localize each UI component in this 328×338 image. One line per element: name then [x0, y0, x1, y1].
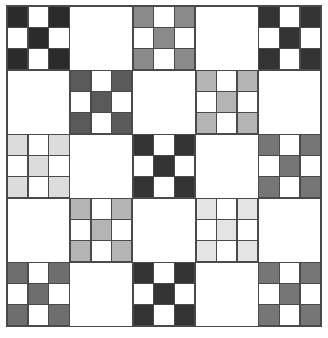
quilt-block-r2-c4	[195, 70, 259, 135]
patch-filled	[300, 176, 321, 198]
patch-filled	[91, 91, 112, 113]
patch-filled	[111, 70, 132, 92]
patch-filled	[258, 176, 279, 198]
patch-empty	[7, 155, 28, 177]
patch-empty	[279, 262, 300, 284]
patch-empty	[28, 48, 49, 70]
patch-filled	[111, 112, 132, 134]
patch-empty	[7, 283, 28, 305]
patch-filled	[174, 262, 195, 284]
patch-filled	[300, 304, 321, 326]
patch-empty	[279, 6, 300, 28]
nine-patch-r1-c1	[8, 7, 70, 70]
patch-filled	[133, 304, 154, 326]
patch-filled	[174, 6, 195, 28]
patch-empty	[279, 48, 300, 70]
patch-filled	[196, 70, 217, 92]
patch-filled	[133, 6, 154, 28]
quilt-block-r1-c3	[132, 6, 196, 71]
patch-filled	[279, 283, 300, 305]
quilt-block-r5-c3	[132, 262, 196, 327]
patch-filled	[133, 176, 154, 198]
patch-filled	[70, 240, 91, 262]
nine-patch-r1-c3	[133, 7, 195, 70]
patch-empty	[111, 91, 132, 113]
patch-filled	[111, 198, 132, 220]
patch-filled	[279, 27, 300, 49]
patch-empty	[174, 27, 195, 49]
patch-filled	[70, 112, 91, 134]
patch-filled	[153, 27, 174, 49]
patch-empty	[153, 304, 174, 326]
patch-filled	[28, 283, 49, 305]
patch-filled	[48, 176, 69, 198]
patch-empty	[174, 283, 195, 305]
nine-patch-r3-c3	[133, 135, 195, 198]
nine-patch-r4-c4	[196, 199, 258, 262]
patch-empty	[196, 219, 217, 241]
patch-filled	[300, 48, 321, 70]
patch-empty	[28, 134, 49, 156]
quilt-block-r2-c2	[69, 70, 133, 135]
quilt-block-r3-c2	[69, 134, 133, 199]
patch-empty	[153, 176, 174, 198]
patch-filled	[258, 48, 279, 70]
patch-filled	[48, 134, 69, 156]
patch-empty	[91, 112, 112, 134]
quilt-block-r1-c4	[195, 6, 259, 71]
patch-filled	[48, 304, 69, 326]
patch-empty	[133, 283, 154, 305]
patch-filled	[196, 240, 217, 262]
nine-patch-r5-c5	[259, 263, 321, 326]
patch-empty	[91, 70, 112, 92]
quilt-block-r2-c1	[7, 70, 71, 135]
patch-filled	[174, 176, 195, 198]
patch-filled	[91, 219, 112, 241]
patch-filled	[196, 112, 217, 134]
quilt-block-r2-c5	[258, 70, 322, 135]
patch-filled	[48, 48, 69, 70]
patch-filled	[133, 48, 154, 70]
patch-empty	[216, 240, 237, 262]
patch-empty	[28, 262, 49, 284]
patch-empty	[91, 198, 112, 220]
patch-empty	[153, 262, 174, 284]
nine-patch-r5-c1	[8, 263, 70, 326]
nine-patch-r3-c1	[8, 135, 70, 198]
patch-empty	[258, 283, 279, 305]
patch-filled	[300, 6, 321, 28]
patch-filled	[7, 176, 28, 198]
patch-filled	[216, 91, 237, 113]
patch-filled	[237, 112, 258, 134]
quilt-grid	[7, 6, 321, 326]
patch-empty	[153, 6, 174, 28]
quilt-block-r3-c4	[195, 134, 259, 199]
patch-filled	[48, 262, 69, 284]
patch-filled	[174, 304, 195, 326]
patch-empty	[28, 6, 49, 28]
nine-patch-r5-c3	[133, 263, 195, 326]
patch-filled	[196, 198, 217, 220]
patch-filled	[258, 6, 279, 28]
patch-empty	[28, 304, 49, 326]
patch-empty	[70, 219, 91, 241]
quilt-block-r3-c5	[258, 134, 322, 199]
patch-filled	[258, 134, 279, 156]
quilt-block-r5-c1	[7, 262, 71, 327]
quilt-block-r2-c3	[132, 70, 196, 135]
quilt-block-r5-c5	[258, 262, 322, 327]
patch-empty	[237, 91, 258, 113]
patch-filled	[153, 155, 174, 177]
patch-filled	[237, 70, 258, 92]
patch-empty	[279, 176, 300, 198]
patch-empty	[48, 283, 69, 305]
patch-filled	[216, 219, 237, 241]
patch-empty	[133, 27, 154, 49]
patch-filled	[7, 48, 28, 70]
patch-filled	[258, 262, 279, 284]
patch-empty	[111, 219, 132, 241]
quilt-block-r5-c4	[195, 262, 259, 327]
patch-empty	[28, 176, 49, 198]
patch-empty	[237, 219, 258, 241]
patch-empty	[153, 134, 174, 156]
